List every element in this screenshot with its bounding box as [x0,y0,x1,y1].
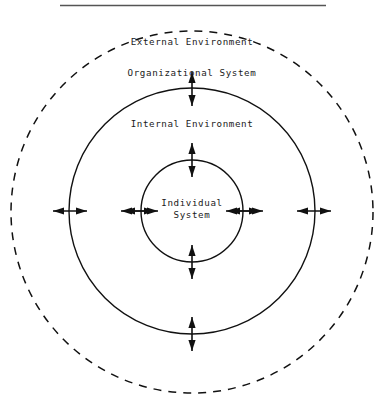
label-external-environment: External Environment [131,36,254,47]
label-individual-system-line1: Individual [161,197,222,208]
label-organizational-system: Organizational System [128,67,257,78]
arrow-left-outer-dashed [53,207,87,214]
label-internal-environment: Internal Environment [131,118,254,129]
label-individual-system-line2: System [174,209,211,220]
arrow-right-outer-dashed [297,207,331,214]
diagram-canvas: External Environment Organizational Syst… [0,0,384,411]
